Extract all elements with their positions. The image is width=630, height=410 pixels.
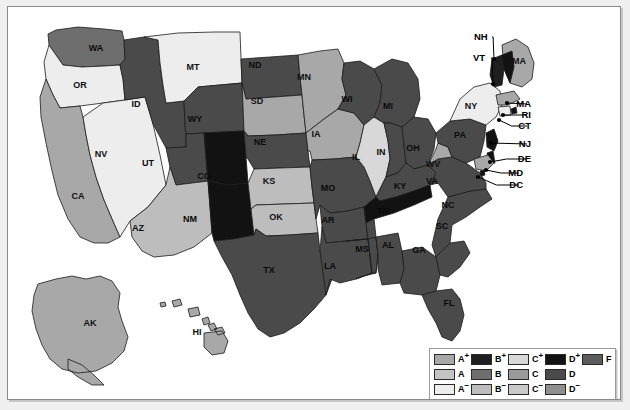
state-label-la: LA [324, 261, 336, 271]
legend-swatch [471, 384, 492, 395]
legend-swatch [508, 384, 529, 395]
legend-label-modifier: + [576, 351, 581, 360]
callout-label-dc: DC [509, 179, 523, 190]
state-label-ms: MS [355, 244, 369, 254]
figure-frame: WAORIDMTWYNVUTCOCAAZNMNDSDNEKSOKTXMNIAMO… [0, 0, 630, 410]
state-label-or: OR [73, 80, 87, 90]
grade-legend: A+B+C+D+FABCDA−B−C−D− [429, 348, 616, 400]
state-label-nd: ND [249, 60, 262, 70]
legend-item-aminus[interactable]: A− [434, 382, 471, 397]
state-nm[interactable] [208, 181, 254, 241]
state-ak[interactable] [32, 276, 128, 385]
state-label-va: VA [426, 176, 438, 186]
state-label-wa: WA [89, 43, 104, 53]
state-label-tx: TX [263, 265, 275, 275]
legend-item-f[interactable]: F [582, 352, 619, 367]
legend-label: D [569, 370, 576, 379]
legend-label-modifier: + [502, 351, 507, 360]
legend-label: A [458, 370, 465, 379]
legend-label-modifier: − [539, 381, 544, 390]
state-label-ia: IA [312, 129, 322, 139]
state-label-wv: WV [426, 159, 441, 169]
legend-swatch [434, 369, 455, 380]
legend-empty-cell [582, 382, 619, 397]
state-label-oh: OH [406, 143, 420, 153]
state-label-ny: NY [465, 101, 478, 111]
state-label-fl: FL [444, 298, 455, 308]
legend-empty-cell [582, 367, 619, 382]
state-label-co: CO [197, 171, 211, 181]
legend-item-aplus[interactable]: A+ [434, 352, 471, 367]
legend-item-cplus[interactable]: C+ [508, 352, 545, 367]
callout-leader-nh [492, 37, 494, 59]
callout-label-nh: NH [474, 31, 488, 42]
legend-item-bplus[interactable]: B+ [471, 352, 508, 367]
callout-label-ct: CT [518, 120, 531, 131]
state-label-id: ID [132, 99, 142, 109]
legend-label-modifier: − [576, 381, 581, 390]
state-tx[interactable] [214, 229, 332, 337]
state-label-ga: GA [412, 245, 426, 255]
state-label-ma: MA [512, 56, 526, 66]
state-label-mi: MI [383, 101, 393, 111]
legend-item-dminus[interactable]: D− [545, 382, 582, 397]
state-ks[interactable] [248, 167, 314, 209]
states-layer[interactable] [32, 27, 534, 385]
legend-label: B− [495, 385, 506, 394]
state-label-ar: AR [322, 215, 335, 225]
legend-item-cminus[interactable]: C− [508, 382, 545, 397]
legend-item-c[interactable]: C [508, 367, 545, 382]
legend-item-bminus[interactable]: B− [471, 382, 508, 397]
legend-label: A+ [458, 355, 469, 364]
state-label-ks: KS [263, 176, 276, 186]
legend-label: F [606, 355, 612, 364]
legend-swatch [545, 354, 566, 365]
state-label-mo: MO [321, 183, 336, 193]
state-fl[interactable] [422, 289, 464, 341]
legend-label: C [532, 370, 539, 379]
legend-item-b[interactable]: B [471, 367, 508, 382]
map-plate: WAORIDMTWYNVUTCOCAAZNMNDSDNEKSOKTXMNIAMO… [7, 6, 621, 400]
callout-label-ri: RI [522, 109, 532, 120]
state-label-wy: WY [188, 114, 203, 124]
legend-label-modifier: + [539, 351, 544, 360]
legend-label: B+ [495, 355, 506, 364]
legend-label: D− [569, 385, 580, 394]
state-label-hi: HI [193, 327, 202, 337]
legend-label: A− [458, 385, 469, 394]
state-label-al: AL [382, 240, 394, 250]
legend-swatch [434, 384, 455, 395]
state-label-ak: AK [84, 318, 97, 328]
legend-label-modifier: + [465, 351, 470, 360]
state-label-in: IN [377, 147, 386, 157]
state-label-nc: NC [442, 200, 455, 210]
state-ok[interactable] [251, 203, 318, 236]
legend-swatch [434, 354, 455, 365]
legend-item-dplus[interactable]: D+ [545, 352, 582, 367]
legend-label: C+ [532, 355, 543, 364]
legend-label: D+ [569, 355, 580, 364]
legend-item-a[interactable]: A [434, 367, 471, 382]
legend-label-modifier: − [465, 381, 470, 390]
state-label-az: AZ [132, 223, 144, 233]
legend-swatch [508, 354, 529, 365]
state-label-ut: UT [142, 158, 154, 168]
state-label-ky: KY [394, 181, 407, 191]
state-label-wi: WI [342, 94, 353, 104]
legend-swatch [471, 369, 492, 380]
state-label-tn: TN [377, 206, 389, 216]
grade-legend-grid: A+B+C+D+FABCDA−B−C−D− [434, 352, 619, 397]
state-mi[interactable] [374, 59, 420, 127]
us-map[interactable]: WAORIDMTWYNVUTCOCAAZNMNDSDNEKSOKTXMNIAMO… [8, 7, 620, 399]
callout-label-de: DE [518, 153, 531, 164]
state-label-ok: OK [269, 212, 283, 222]
state-nj[interactable] [486, 129, 498, 151]
legend-item-d[interactable]: D [545, 367, 582, 382]
legend-label-modifier: − [502, 381, 507, 390]
legend-swatch [582, 354, 603, 365]
legend-swatch [508, 369, 529, 380]
legend-label: C− [532, 385, 543, 394]
callout-label-vt: VT [473, 52, 485, 63]
state-label-sc: SC [436, 221, 449, 231]
state-label-mt: MT [187, 62, 200, 72]
